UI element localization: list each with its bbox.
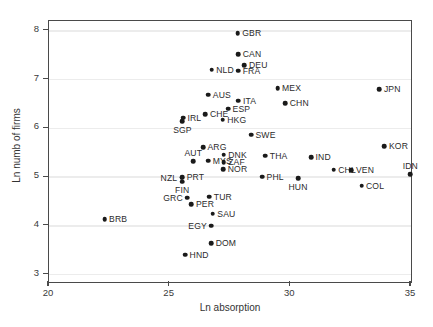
point-label-col: COL [366, 181, 384, 191]
x-tick-label-30: 30 [284, 287, 295, 298]
data-point-ind[interactable] [309, 155, 314, 160]
point-label-tur: TUR [214, 192, 232, 202]
point-label-mex: MEX [282, 83, 301, 93]
data-point-hun[interactable] [296, 176, 301, 181]
data-point-kor[interactable] [382, 144, 387, 149]
point-label-aut: AUT [184, 148, 202, 158]
point-label-gbr: GBR [242, 28, 261, 38]
point-label-aus: AUS [213, 90, 231, 100]
x-tick-mark-30 [289, 281, 290, 286]
data-point-aut[interactable] [191, 159, 196, 164]
data-point-mys[interactable] [206, 158, 211, 163]
data-point-dom[interactable] [209, 241, 214, 246]
data-point-ven[interactable] [349, 168, 354, 173]
y-tick-label-4: 4 [0, 218, 39, 229]
data-point-fin[interactable] [180, 179, 185, 184]
data-point-sgp[interactable] [180, 119, 185, 124]
data-point-aus[interactable] [206, 92, 211, 97]
data-point-per[interactable] [189, 202, 194, 207]
point-label-dom: DOM [216, 238, 237, 248]
point-label-hun: HUN [289, 182, 308, 192]
point-label-kor: KOR [389, 141, 408, 151]
point-label-esp: ESP [233, 104, 251, 114]
x-axis-label: Ln absorption [48, 302, 412, 313]
data-point-nor[interactable] [221, 167, 226, 172]
x-tick-label-35: 35 [405, 287, 416, 298]
y-tick-mark-8 [43, 29, 48, 30]
data-point-grc[interactable] [185, 195, 190, 200]
plot-area: GBRCANDEUNLDFRAMEXJPNAUSITACHNESPCHEIRLH… [48, 20, 412, 283]
data-point-idn[interactable] [408, 172, 413, 177]
y-axis-label: Ln numb of firms [11, 76, 22, 216]
point-label-jpn: JPN [384, 84, 401, 94]
point-label-idn: IDN [403, 161, 418, 171]
y-tick-mark-4 [43, 224, 48, 225]
gridline-y-8 [49, 30, 411, 32]
data-point-sau[interactable] [211, 211, 216, 216]
point-label-egy: EGY [188, 221, 207, 231]
x-tick-mark-25 [168, 281, 169, 286]
gridline-y-7 [49, 79, 411, 81]
y-tick-label-3: 3 [0, 267, 39, 278]
data-point-mex[interactable] [275, 86, 280, 91]
data-point-gbr[interactable] [235, 31, 240, 36]
y-tick-label-8: 8 [0, 23, 39, 34]
gridline-y-3 [49, 274, 411, 276]
data-point-egy[interactable] [209, 224, 214, 229]
point-label-per: PER [196, 199, 214, 209]
data-point-nld[interactable] [209, 67, 214, 72]
data-point-chn[interactable] [283, 101, 288, 106]
y-tick-mark-5 [43, 176, 48, 177]
data-point-jpn[interactable] [377, 87, 382, 92]
gridline-y-5 [49, 176, 411, 178]
point-label-nld: NLD [216, 65, 234, 75]
y-tick-mark-7 [43, 78, 48, 79]
point-label-grc: GRC [163, 193, 183, 203]
point-label-ind: IND [316, 152, 331, 162]
point-label-can: CAN [243, 49, 262, 59]
data-point-swe[interactable] [249, 132, 254, 137]
point-label-sau: SAU [217, 209, 235, 219]
y-tick-mark-3 [43, 273, 48, 274]
gridline-y-6 [49, 128, 411, 130]
data-point-col[interactable] [359, 184, 364, 189]
point-label-prt: PRT [187, 172, 204, 182]
data-point-hkg[interactable] [220, 117, 225, 122]
data-point-ita[interactable] [236, 98, 241, 103]
point-label-phl: PHL [267, 172, 284, 182]
point-label-che: CHE [210, 109, 229, 119]
data-point-chl[interactable] [331, 167, 336, 172]
point-label-tha: THA [270, 151, 288, 161]
point-label-arg: ARG [207, 142, 226, 152]
point-label-hkg: HKG [227, 115, 246, 125]
point-label-swe: SWE [255, 130, 275, 140]
gridline-y-4 [49, 225, 411, 227]
data-point-phl[interactable] [260, 174, 265, 179]
point-label-nzl: NZL [161, 173, 178, 183]
data-point-che[interactable] [203, 112, 208, 117]
point-label-chn: CHN [290, 98, 309, 108]
data-point-fra[interactable] [236, 68, 241, 73]
point-label-nor: NOR [228, 164, 248, 174]
point-label-ven: VEN [356, 165, 374, 175]
x-tick-mark-35 [409, 281, 410, 286]
data-point-brb[interactable] [102, 217, 107, 222]
point-label-fra: FRA [243, 66, 261, 76]
point-label-hnd: HND [190, 250, 209, 260]
y-tick-mark-6 [43, 127, 48, 128]
x-tick-label-20: 20 [43, 287, 54, 298]
x-tick-label-25: 25 [163, 287, 174, 298]
data-point-hnd[interactable] [183, 252, 188, 257]
data-point-zaf[interactable] [221, 160, 226, 165]
data-point-tur[interactable] [207, 194, 212, 199]
data-point-can[interactable] [236, 52, 241, 57]
scatter-plot-figure: GBRCANDEUNLDFRAMEXJPNAUSITACHNESPCHEIRLH… [0, 0, 433, 327]
data-point-tha[interactable] [263, 153, 268, 158]
point-label-brb: BRB [109, 214, 127, 224]
point-label-sgp: SGP [173, 125, 192, 135]
point-label-irl: IRL [187, 113, 201, 123]
x-tick-mark-20 [47, 281, 48, 286]
